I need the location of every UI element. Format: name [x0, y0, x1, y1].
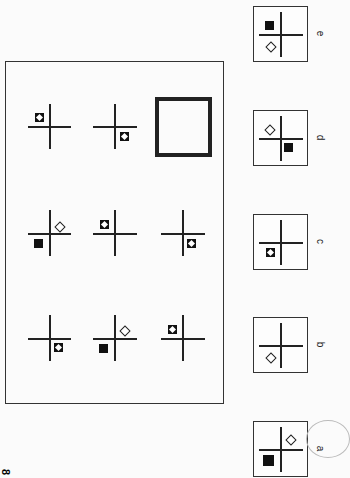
cross-vertical [114, 315, 116, 361]
diamond-icon [119, 325, 130, 336]
option-label-d: d [315, 135, 326, 141]
solid-square-icon [99, 344, 108, 353]
option-c[interactable] [253, 214, 308, 270]
option-d[interactable] [253, 110, 308, 166]
matrix-cell-2-3 [161, 210, 206, 256]
cross-vertical [114, 210, 116, 256]
diamond-icon [264, 124, 275, 135]
cross-vertical [49, 210, 51, 256]
cross-vertical [280, 220, 282, 265]
solid-square-icon [263, 455, 274, 466]
cross-vertical [114, 104, 116, 149]
option-label-a: a [315, 446, 326, 452]
option-label-e: e [315, 31, 326, 37]
pencil-circle-mark [306, 420, 350, 458]
diamond-icon [54, 221, 65, 232]
framed-diamond-icon [168, 325, 177, 334]
cross-vertical [280, 12, 282, 57]
cross-vertical [280, 323, 282, 368]
matrix-cell-3-3 [161, 315, 206, 361]
matrix-cell-1-2 [93, 104, 138, 150]
diamond-icon [265, 41, 276, 52]
diamond-icon [265, 352, 276, 363]
cross-vertical [182, 315, 184, 361]
option-b[interactable] [253, 317, 308, 373]
matrix-cell-2-2 [93, 210, 138, 256]
matrix-cell-3-1 [28, 315, 73, 361]
empty-answer-slot[interactable] [155, 97, 212, 157]
framed-diamond-icon [266, 248, 275, 257]
cross-vertical [49, 104, 51, 149]
matrix-cell-2-1 [28, 210, 73, 256]
cross-vertical [182, 210, 184, 256]
framed-diamond-icon [35, 113, 44, 122]
cross-vertical [280, 427, 282, 472]
framed-diamond-icon [100, 220, 109, 229]
solid-square-icon [34, 239, 43, 248]
diamond-icon [285, 434, 296, 445]
framed-diamond-icon [120, 132, 129, 141]
option-a[interactable] [253, 421, 308, 477]
matrix-cell-3-2 [93, 315, 138, 361]
cross-vertical [49, 315, 51, 361]
problem-number: 8 [0, 469, 12, 475]
framed-diamond-icon [187, 239, 196, 248]
option-e[interactable] [253, 6, 308, 62]
option-label-c: c [315, 239, 326, 244]
framed-diamond-icon [54, 343, 63, 352]
option-label-b: b [315, 342, 326, 348]
solid-square-icon [284, 143, 293, 152]
cross-vertical [280, 116, 282, 161]
solid-square-icon [265, 21, 274, 30]
matrix-cell-1-1 [28, 104, 73, 150]
